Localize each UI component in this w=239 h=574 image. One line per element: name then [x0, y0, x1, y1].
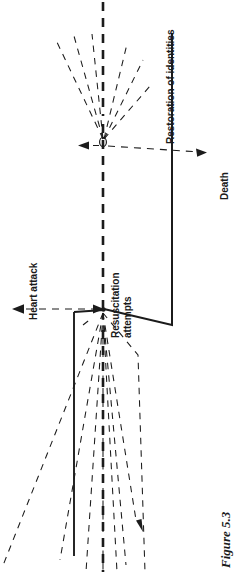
label-restoration-of-identities: Restoration of identities — [165, 30, 176, 144]
label-resuscitation-line2: attempts — [122, 296, 133, 338]
solid-descending-line — [74, 310, 104, 556]
label-death: Death — [219, 172, 230, 200]
label-heart-attack: Heart attack — [28, 263, 39, 320]
figure-container: Heart attack Resuscitation attempts Rest… — [0, 0, 239, 574]
label-resuscitation-attempts: Resuscitation attempts — [110, 272, 133, 338]
descending-dashed-arrow — [136, 519, 143, 532]
figure-caption: Figure 5.3 — [218, 512, 234, 568]
death-arrow — [108, 146, 207, 157]
label-resuscitation-line1: Resuscitation — [110, 272, 121, 338]
heart-attack-arrow — [12, 304, 98, 314]
upper-node-left-arrow — [78, 141, 99, 149]
